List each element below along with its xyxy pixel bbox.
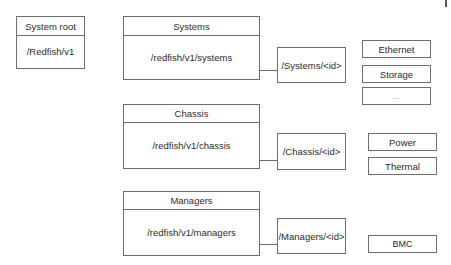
chassis-collection-box: Chassis /redfish/v1/chassis [123,104,260,169]
power-box: Power [368,133,437,151]
more-box: ... [362,87,431,105]
systems-path: /redfish/v1/systems [124,35,259,79]
ethernet-box: Ethernet [362,40,431,58]
chassis-path: /redfish/v1/chassis [124,122,259,168]
chassis-connector [259,160,277,161]
managers-instance-box: /Managers/<id> [277,218,346,254]
systems-title: Systems [124,17,259,36]
managers-collection-box: Managers /redfish/v1/managers [123,191,260,256]
systems-connector [259,70,277,71]
systems-collection-box: Systems /redfish/v1/systems [123,16,260,80]
chassis-title: Chassis [124,105,259,123]
bmc-box: BMC [368,235,437,253]
storage-box: Storage [362,65,431,83]
thermal-box: Thermal [368,157,437,175]
chassis-instance-box: /Chassis/<id> [277,133,346,170]
systems-instance-box: /Systems/<id> [277,47,346,83]
managers-path: /redfish/v1/managers [124,209,259,255]
system-root-path: /Redfish/v1 [17,35,84,68]
managers-connector [259,244,277,245]
managers-title: Managers [124,192,259,210]
system-root-box: System root /Redfish/v1 [16,16,85,69]
system-root-title: System root [17,17,84,36]
page-edge-mark [445,0,447,7]
